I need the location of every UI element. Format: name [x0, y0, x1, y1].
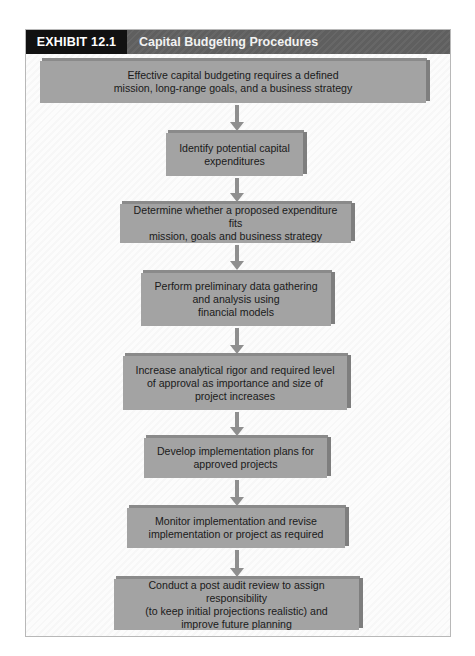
- step-2-box: Identify potential capital expenditures: [166, 133, 303, 176]
- exhibit-header: EXHIBIT 12.1 Capital Budgeting Procedure…: [26, 30, 450, 54]
- exhibit-title: Capital Budgeting Procedures: [139, 30, 318, 54]
- arrow-3-icon: [230, 245, 244, 270]
- arrow-2-icon: [230, 178, 244, 202]
- step-4-box: Perform preliminary data gathering and a…: [141, 273, 331, 326]
- step-8-box: Conduct a post audit review to assign re…: [114, 579, 359, 630]
- step-7-box: Monitor implementation and revise implem…: [127, 508, 345, 548]
- step-6-box: Develop implementation plans for approve…: [144, 438, 327, 478]
- step-3-box: Determine whether a proposed expenditure…: [120, 204, 351, 243]
- arrow-1-icon: [230, 105, 244, 131]
- exhibit-label: EXHIBIT 12.1: [26, 30, 127, 54]
- arrow-5-icon: [230, 412, 244, 436]
- step-1-box: Effective capital budgeting requires a d…: [40, 61, 426, 103]
- step-5-box: Increase analytical rigor and required l…: [123, 356, 347, 410]
- arrow-7-icon: [230, 550, 244, 577]
- arrow-6-icon: [230, 480, 244, 506]
- arrow-4-icon: [230, 328, 244, 354]
